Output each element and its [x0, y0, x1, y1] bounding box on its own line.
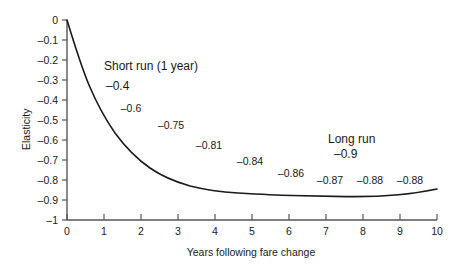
short-run-annotation: Short run (1 year): [104, 58, 198, 74]
y-axis-ticks: [62, 20, 67, 220]
x-axis-title: Years following fare change: [187, 246, 316, 258]
long-run-value: –0.9: [334, 146, 357, 162]
x-tick-label-5: 5: [249, 226, 255, 237]
x-tick-label-8: 8: [360, 226, 366, 237]
x-tick-label-2: 2: [138, 226, 144, 237]
point-label-year-5: –0.84: [237, 155, 263, 167]
x-tick-label-3: 3: [175, 226, 181, 237]
y-tick-label-1: –0.1: [30, 35, 58, 46]
y-tick-label-5: –0.5: [30, 115, 58, 126]
x-tick-label-7: 7: [323, 226, 329, 237]
point-label-year-6: –0.86: [278, 167, 304, 179]
y-tick-label-6: –0.6: [30, 135, 58, 146]
y-tick-label-7: –0.7: [30, 155, 58, 166]
point-label-year-4: –0.81: [196, 139, 222, 151]
point-label-year-7: –0.87: [317, 174, 343, 186]
short-run-value: –0.4: [106, 78, 129, 94]
x-tick-label-4: 4: [212, 226, 218, 237]
point-label-year-3: –0.75: [158, 119, 184, 131]
y-tick-label-4: –0.4: [30, 95, 58, 106]
point-label-year-9: –0.88: [397, 174, 423, 186]
y-tick-label-3: –0.3: [30, 75, 58, 86]
x-tick-label-0: 0: [64, 226, 70, 237]
y-tick-label-8: –0.8: [30, 175, 58, 186]
x-axis-ticks: [67, 214, 437, 220]
y-axis-title: Elasticity: [20, 109, 32, 150]
point-label-year-2: –0.6: [121, 102, 141, 114]
point-label-year-8: –0.88: [357, 174, 383, 186]
y-tick-label-9: –0.9: [30, 195, 58, 206]
y-tick-label-10: –1: [32, 215, 58, 226]
x-tick-label-9: 9: [397, 226, 403, 237]
elasticity-decay-chart: 0 –0.1 –0.2 –0.3 –0.4 –0.5 –0.6 –0.7 –0.…: [0, 0, 459, 268]
x-tick-label-10: 10: [431, 226, 443, 237]
x-tick-label-1: 1: [101, 226, 107, 237]
y-tick-label-2: –0.2: [30, 55, 58, 66]
x-tick-label-6: 6: [286, 226, 292, 237]
y-tick-label-0: 0: [34, 15, 58, 26]
long-run-annotation: Long run: [328, 131, 375, 147]
